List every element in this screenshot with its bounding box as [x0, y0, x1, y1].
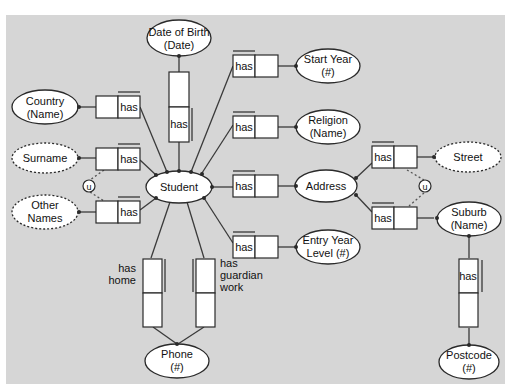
role-label: home — [108, 274, 136, 286]
entity-entry-year-level[interactable]: Entry Year Level (#) — [296, 230, 360, 264]
role-label: has — [374, 151, 392, 163]
role-label: has — [120, 153, 138, 165]
fact-suburb-has-postcode[interactable]: has — [459, 259, 482, 327]
role-label: has — [374, 212, 392, 224]
entity-label: Religion — [308, 114, 348, 126]
entity-label: Entry Year — [303, 234, 354, 246]
entity-refmode: (Name) — [310, 127, 347, 139]
entity-refmode: (#) — [170, 361, 183, 373]
entity-religion[interactable]: Religion (Name) — [296, 110, 360, 144]
entity-postcode[interactable]: Postcode (#) — [439, 345, 499, 379]
role-label: has — [170, 118, 188, 130]
entity-phone[interactable]: Phone (#) — [145, 344, 209, 378]
orm-diagram: Date of Birth (Date) Country (Name) Surn… — [0, 0, 513, 390]
entity-refmode: (Name) — [27, 108, 64, 120]
entity-start-year[interactable]: Start Year (#) — [296, 49, 360, 83]
role-label: has — [220, 257, 238, 269]
value-other-names[interactable]: Other Names — [12, 195, 78, 229]
union-constraint-student-names[interactable]: u — [83, 180, 95, 192]
entity-address[interactable]: Address — [295, 170, 357, 202]
entity-refmode: (#) — [462, 362, 475, 374]
fact-student-has-religion[interactable]: has — [233, 112, 278, 138]
role-label: has — [120, 206, 138, 218]
role-label: has — [235, 121, 253, 133]
entity-label: Student — [160, 181, 198, 193]
role-label: guardian — [220, 269, 263, 281]
union-constraint-address-parts[interactable]: u — [419, 180, 431, 192]
value-label: Names — [28, 212, 63, 224]
fact-student-has-address[interactable]: has — [233, 171, 278, 197]
value-street[interactable]: Street — [435, 142, 501, 172]
entity-suburb[interactable]: Suburb (Name) — [437, 202, 501, 236]
entity-refmode: (Name) — [451, 219, 488, 231]
union-symbol: u — [422, 182, 427, 192]
role-label: has — [235, 60, 253, 72]
role-label: has — [120, 101, 138, 113]
fact-student-has-start-year[interactable]: has — [233, 51, 278, 77]
entity-country[interactable]: Country (Name) — [12, 90, 78, 124]
role-label: has — [118, 262, 136, 274]
entity-refmode: Level (#) — [307, 247, 350, 259]
entity-label: Country — [26, 95, 65, 107]
value-label: Street — [453, 151, 482, 163]
value-surname[interactable]: Surname — [12, 143, 78, 173]
fact-student-has-dob[interactable]: has — [169, 72, 192, 142]
role-label: has — [459, 270, 477, 282]
entity-label: Address — [306, 180, 347, 192]
fact-address-has-suburb[interactable]: has — [372, 203, 417, 229]
role-label: work — [219, 281, 244, 293]
entity-label: Start Year — [304, 53, 353, 65]
fact-address-has-street[interactable]: has — [372, 142, 417, 168]
entity-refmode: (#) — [321, 66, 334, 78]
entity-label: Date of Birth — [148, 26, 209, 38]
value-label: Surname — [23, 152, 68, 164]
fact-student-has-entry-year-level[interactable]: has — [233, 232, 278, 258]
role-label: has — [235, 241, 253, 253]
entity-label: Phone — [161, 348, 193, 360]
entity-label: Postcode — [446, 349, 492, 361]
entity-label: Suburb — [451, 206, 486, 218]
entity-refmode: (Date) — [164, 39, 195, 51]
entity-date-of-birth[interactable]: Date of Birth (Date) — [147, 20, 211, 56]
fact-student-has-other-names[interactable]: has — [96, 197, 140, 223]
fact-student-has-country[interactable]: has — [96, 92, 140, 118]
fact-student-has-surname[interactable]: has — [96, 144, 140, 170]
value-label: Other — [31, 199, 59, 211]
role-label: has — [235, 180, 253, 192]
union-symbol: u — [86, 182, 91, 192]
